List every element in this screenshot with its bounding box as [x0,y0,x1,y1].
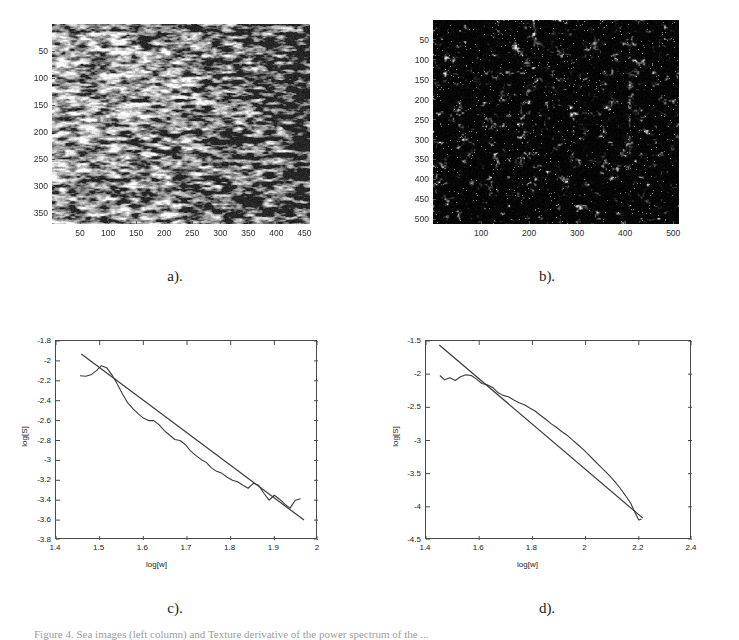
panel-a: 5010015020025030035050100150200250300350… [0,0,370,260]
axis-tick-label: 500 [403,214,429,224]
axis-tick-label: 200 [157,228,171,238]
panel-letter-a: a). [155,268,195,285]
axis-tick-label: 150 [403,75,429,85]
axis-tickmark [433,179,436,180]
axis-tickmark [52,78,55,79]
axis-tickmark [433,139,436,140]
axis-tick-label: 1.6 [473,543,484,552]
axis-tick-label: 1.4 [49,543,60,552]
axis-tickmark [433,39,436,40]
axis-tickmark [433,79,436,80]
axis-tickmark [248,221,249,224]
axis-tick-label: 50 [403,35,429,45]
axis-tick-label: 2 [582,543,586,552]
axis-tickmark [433,159,436,160]
axis-tickmark [433,199,436,200]
axis-tick-label: 150 [129,228,143,238]
axis-tick-label: -3 [395,435,421,444]
axis-tick-label: 400 [269,228,283,238]
axis-tick-label: 2.2 [632,543,643,552]
axis-tickmark [625,221,626,224]
axis-tick-label: 300 [22,181,48,191]
axis-tick-label: 250 [22,154,48,164]
axis-tick-label: 50 [22,46,48,56]
axis-tick-label: -2.4 [25,395,51,404]
axis-tick-label: 400 [618,228,632,238]
axis-tickmark [108,221,109,224]
axis-tickmark [192,221,193,224]
axis-tick-label: 1.8 [224,543,235,552]
axis-tick-label: -4.5 [395,535,421,544]
panel-d-plot-frame [425,340,691,539]
panel-b-image [433,20,679,224]
axis-tick-label: 1.8 [526,543,537,552]
axis-tick-label: 200 [403,95,429,105]
axis-tick-label: 1.6 [137,543,148,552]
spectrum-curve [440,375,642,520]
axis-tickmark [52,132,55,133]
axis-tickmark [52,213,55,214]
axis-tick-label: -2 [395,369,421,378]
axis-tick-label: 500 [666,228,680,238]
axis-tick-label: 2.4 [685,543,696,552]
axis-tick-label: 100 [101,228,115,238]
axis-tickmark [52,51,55,52]
axis-tick-label: 200 [522,228,536,238]
axis-tickmark [433,99,436,100]
axis-tick-label: 100 [22,73,48,83]
panel-d-curves [426,341,692,540]
axis-tick-label: 100 [474,228,488,238]
panel-letter-b: b). [527,268,567,285]
axis-tick-label: -2.8 [25,435,51,444]
axis-tick-label: -3.5 [395,468,421,477]
axis-tick-label: 100 [403,55,429,65]
panel-c: log[S] log[w] -1.8-2-2.2-2.4-2.6-2.8-3-3… [0,320,370,600]
axis-tick-label: -2 [25,355,51,364]
axis-tickmark [304,221,305,224]
axis-tick-label: -4 [395,501,421,510]
axis-tick-label: 150 [22,100,48,110]
axis-tick-label: 50 [75,228,84,238]
figure-caption: Figure 4. Sea images (left column) and T… [34,628,714,640]
axis-tick-label: 1.7 [180,543,191,552]
axis-tick-label: -1.5 [395,336,421,345]
axis-tick-label: -3.2 [25,475,51,484]
axis-tick-label: 350 [403,154,429,164]
regression-line [439,345,642,518]
axis-tickmark [276,221,277,224]
axis-tick-label: -3.4 [25,495,51,504]
axis-tick-label: 450 [403,194,429,204]
axis-tick-label: 350 [22,208,48,218]
regression-line [81,354,304,520]
axis-tickmark [673,221,674,224]
panel-d-xlabel: log[w] [517,560,538,569]
panel-b: 5010015020025030035040045050010020030040… [369,0,739,260]
axis-tickmark [80,221,81,224]
axis-tick-label: 300 [403,135,429,145]
axis-tickmark [529,221,530,224]
axis-tick-label: -3.8 [25,535,51,544]
axis-tickmark [433,59,436,60]
panel-letter-d: d). [527,600,567,617]
axis-tick-label: -2.5 [395,402,421,411]
axis-tick-label: -3 [25,455,51,464]
axis-tickmark [433,219,436,220]
axis-tickmark [52,105,55,106]
axis-tickmark [481,221,482,224]
axis-tick-label: 300 [213,228,227,238]
axis-tick-label: 250 [403,115,429,125]
panel-letter-c: c). [155,600,195,617]
axis-tick-label: 450 [297,228,311,238]
axis-tickmark [220,221,221,224]
axis-tick-label: 1.4 [419,543,430,552]
panel-c-xlabel: log[w] [146,560,167,569]
axis-tickmark [52,159,55,160]
axis-tick-label: -1.8 [25,336,51,345]
axis-tickmark [433,119,436,120]
axis-tick-label: -2.6 [25,415,51,424]
axis-tick-label: 1.9 [268,543,279,552]
figure-container: 5010015020025030035050100150200250300350… [0,0,739,640]
panel-c-plot-frame [55,340,317,539]
panel-a-image [52,24,310,224]
axis-tick-label: -2.2 [25,375,51,384]
